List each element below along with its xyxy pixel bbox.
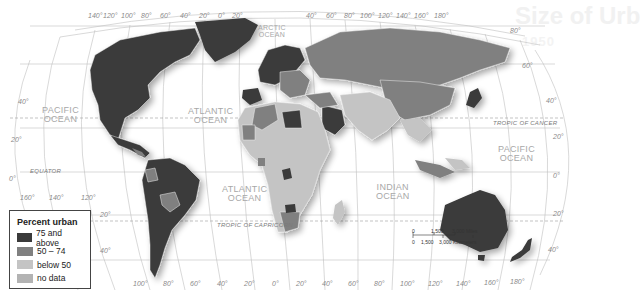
tropic-of-capricorn-label: TROPIC OF CAPRICORN [217,222,293,228]
legend-swatch [17,247,33,256]
asia [305,28,510,90]
greenland [195,18,258,62]
legend-item-below-50: below 50 [17,258,84,272]
legend: Percent urban 75 and above 50 – 74 below… [9,210,91,289]
ocean-label-pacific-west: PACIFIC OCEAN [42,106,79,125]
legend-swatch [17,260,33,269]
ocean-label-pacific-east: PACIFIC OCEAN [498,145,535,164]
ocean-label-indian: INDIAN OCEAN [376,183,410,202]
new-zealand [510,238,532,262]
legend-item-no-data: no data [17,272,84,286]
ocean-label-atlantic-south: ATLANTIC OCEAN [222,185,267,204]
legend-swatch [17,233,32,242]
equator-label: EQUATOR [30,168,61,174]
legend-item-75-above: 75 and above [17,231,84,245]
legend-title: Percent urban [17,217,84,227]
scale-bar-labels: 0 1,500 3,000 Miles 0 1,500 3,000 Kilome… [412,226,512,248]
north-america [90,28,200,140]
ocean-label-arctic: ARCTIC OCEAN [258,24,286,39]
legend-swatch [17,274,33,283]
tropic-of-cancer-label: TROPIC OF CANCER [493,120,557,126]
ocean-label-atlantic-north: ATLANTIC OCEAN [188,107,233,126]
